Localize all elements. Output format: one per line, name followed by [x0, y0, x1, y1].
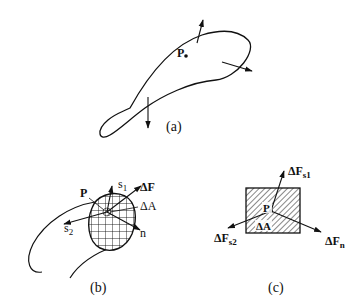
- label-delta-f: ΔF: [140, 180, 155, 194]
- label-s2: s2: [64, 221, 73, 237]
- label-p-b: P: [80, 186, 87, 200]
- caption-b: (b): [90, 280, 107, 296]
- panel-b: P s1 ΔF ΔA s2 n (b): [29, 177, 157, 296]
- panel-a: P (a): [100, 20, 252, 137]
- label-s1: s1: [118, 177, 127, 193]
- label-fn: ΔFn: [325, 234, 345, 250]
- label-n: n: [140, 226, 146, 240]
- force-arrow-top: [197, 20, 203, 43]
- label-fs1: ΔFs1: [288, 164, 311, 180]
- caption-c: (c): [268, 280, 284, 296]
- label-delta-a-b: ΔA: [140, 199, 157, 213]
- label-fs2: ΔFs2: [214, 231, 237, 247]
- label-delta-a-c: ΔA: [256, 220, 271, 232]
- panel-c: P ΔA ΔFs1 ΔFs2 ΔFn (c): [214, 164, 345, 296]
- area-element-rect: [246, 188, 300, 233]
- stress-diagram-figure: P (a) P s1 ΔF ΔA s2 n (b): [0, 0, 362, 308]
- label-p-c: P: [263, 202, 270, 214]
- point-p-a: [184, 54, 188, 58]
- caption-a: (a): [166, 119, 182, 135]
- label-p-a: P: [177, 46, 184, 60]
